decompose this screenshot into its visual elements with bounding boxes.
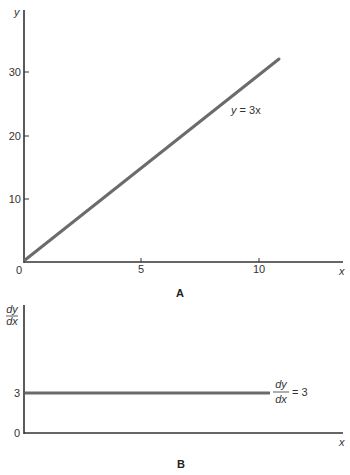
figure: y 30 20 10 0 5 10 x y = 3x A dy dx 3 0 x…	[0, 0, 350, 475]
panel-a-y-axis-label: y	[13, 6, 21, 18]
panel-b-ytick-label-3: 3	[14, 387, 20, 399]
panel-b-ytick-label-0: 0	[14, 427, 20, 439]
panel-a-ytick-label-20: 20	[9, 130, 21, 142]
panel-a-x-axis-label: x	[338, 265, 345, 277]
panel-b-line-annotation-rhs: = 3	[292, 386, 308, 398]
panel-b-line-annotation-den: dx	[275, 393, 287, 405]
panel-b-label: B	[177, 458, 185, 470]
panel-a-ytick-label-10: 10	[9, 193, 21, 205]
panel-b-y-axis-label-num: dy	[6, 303, 19, 315]
panel-a-line-y-3x	[25, 59, 279, 260]
panel-a-origin-label: 0	[16, 264, 22, 276]
panel-a: y 30 20 10 0 5 10 x y = 3x A	[9, 6, 345, 299]
panel-b: dy dx 3 0 x dy dx = 3 B	[6, 303, 345, 470]
panel-b-x-axis-label: x	[338, 436, 345, 448]
panel-b-line-annotation-num: dy	[275, 378, 288, 390]
panel-a-line-annotation: y = 3x	[230, 104, 261, 116]
panel-a-ytick-label-30: 30	[9, 66, 21, 78]
panel-b-y-axis-label-den: dx	[6, 315, 18, 327]
panel-a-label: A	[176, 287, 184, 299]
panel-a-xtick-label-5: 5	[138, 263, 144, 275]
panel-a-xtick-label-10: 10	[253, 263, 265, 275]
